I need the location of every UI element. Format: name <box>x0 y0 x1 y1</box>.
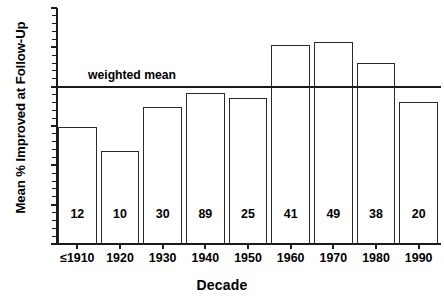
x-tick-1920 <box>119 244 121 249</box>
bar-count-label-1970: 49 <box>312 208 354 220</box>
weighted-mean-label: weighted mean <box>88 69 176 81</box>
y-tick-50 <box>51 46 57 48</box>
bar-1930 <box>143 107 182 245</box>
y-minor-tick <box>52 78 57 79</box>
bar-1950 <box>229 98 268 245</box>
x-tick-≤1910 <box>76 244 78 249</box>
x-tick-1970 <box>332 244 334 249</box>
y-minor-tick <box>52 181 57 182</box>
y-minor-tick <box>52 133 57 134</box>
y-minor-tick <box>52 70 57 71</box>
bar-1920 <box>101 151 140 245</box>
x-tick-1960 <box>290 244 292 249</box>
x-tick-1930 <box>162 244 164 249</box>
y-minor-tick <box>52 188 57 189</box>
x-tick-1980 <box>375 244 377 249</box>
x-tick-1950 <box>247 244 249 249</box>
bar-count-label-1950: 25 <box>227 208 269 220</box>
y-tick-30 <box>51 125 57 127</box>
y-tick-60 <box>51 7 57 9</box>
bar-count-label-1920: 10 <box>99 208 141 220</box>
y-minor-tick <box>52 102 57 103</box>
bar-count-label-≤1910: 12 <box>56 208 98 220</box>
y-minor-tick <box>52 110 57 111</box>
y-minor-tick <box>52 157 57 158</box>
y-minor-tick <box>52 63 57 64</box>
y-minor-tick <box>52 236 57 237</box>
y-minor-tick <box>52 118 57 119</box>
y-minor-tick <box>52 55 57 56</box>
y-minor-tick <box>52 228 57 229</box>
x-tick-label-1990: 1990 <box>391 252 444 264</box>
x-tick-1940 <box>204 244 206 249</box>
bar-count-label-1980: 38 <box>355 208 397 220</box>
x-axis-title: Decade <box>0 277 444 293</box>
x-tick-1990 <box>418 244 420 249</box>
bar-≤1910 <box>58 127 97 245</box>
y-minor-tick <box>52 94 57 95</box>
y-minor-tick <box>52 173 57 174</box>
bar-chart: Mean % Improved at Follow-Up Decade 0102… <box>0 0 444 299</box>
plot-area: 0102030405060 121030892541493820 ≤191019… <box>56 8 440 244</box>
bar-1990 <box>399 102 438 245</box>
bar-count-label-1990: 20 <box>398 208 440 220</box>
y-minor-tick <box>52 39 57 40</box>
y-minor-tick <box>52 31 57 32</box>
bar-count-label-1960: 41 <box>270 208 312 220</box>
y-minor-tick <box>52 23 57 24</box>
bar-1940 <box>186 93 225 245</box>
y-tick-20 <box>51 164 57 166</box>
bar-count-label-1930: 30 <box>142 208 184 220</box>
y-minor-tick <box>52 15 57 16</box>
y-tick-0 <box>51 243 57 245</box>
bar-count-label-1940: 89 <box>184 208 226 220</box>
y-minor-tick <box>52 149 57 150</box>
y-tick-10 <box>51 204 57 206</box>
y-axis-title: Mean % Improved at Follow-Up <box>13 2 28 234</box>
y-minor-tick <box>52 141 57 142</box>
weighted-mean-line <box>56 86 441 88</box>
y-minor-tick <box>52 196 57 197</box>
